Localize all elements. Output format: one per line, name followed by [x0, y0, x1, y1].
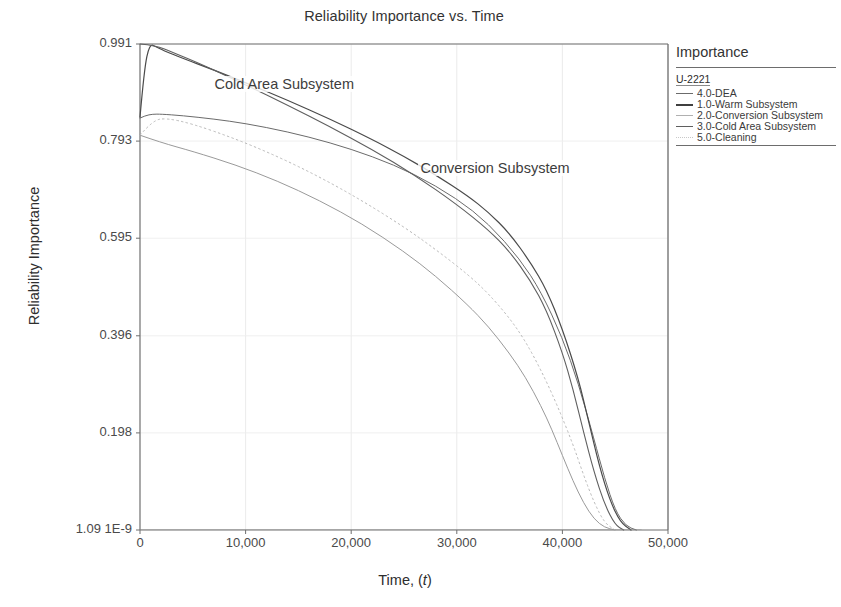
- legend-box: U-2221 4.0-DEA1.0-Warm Subsystem2.0-Conv…: [676, 67, 836, 146]
- legend: Importance U-2221 4.0-DEA1.0-Warm Subsys…: [676, 44, 836, 146]
- series-label-annotation: Cold Area Subsystem: [213, 76, 356, 92]
- x-axis-tick-label: 20,000: [291, 535, 411, 550]
- legend-line-swatch: [676, 126, 693, 127]
- series-label-annotation: Conversion Subsystem: [418, 160, 571, 176]
- legend-entry-list: 4.0-DEA1.0-Warm Subsystem2.0-Conversion …: [676, 87, 836, 143]
- y-axis-tick-label: 0.595: [10, 229, 132, 244]
- y-axis-tick-label: 0.991: [10, 35, 132, 50]
- legend-entry[interactable]: 5.0-Cleaning: [676, 132, 836, 143]
- legend-entry-label: 5.0-Cleaning: [697, 132, 757, 143]
- legend-line-swatch: [676, 137, 693, 138]
- x-axis-tick-label: 50,000: [608, 535, 728, 550]
- y-axis-tick-label: 0.198: [10, 424, 132, 439]
- y-axis-tick-label: 0.793: [10, 132, 132, 147]
- legend-group-label: U-2221: [676, 74, 710, 86]
- legend-line-swatch: [676, 104, 693, 106]
- x-axis-tick-label: 10,000: [186, 535, 306, 550]
- y-axis-tick-label: 1.09 1E-9: [10, 521, 132, 536]
- x-axis-tick-label: 30,000: [397, 535, 517, 550]
- legend-line-swatch: [676, 115, 693, 116]
- legend-title: Importance: [676, 44, 836, 60]
- y-axis-tick-label: 0.396: [10, 327, 132, 342]
- x-axis-tick-label: 40,000: [502, 535, 622, 550]
- chart-figure: Reliability Importance vs. Time Reliabil…: [0, 0, 841, 607]
- legend-line-swatch: [676, 93, 693, 94]
- x-axis-tick-label: 0: [80, 535, 200, 550]
